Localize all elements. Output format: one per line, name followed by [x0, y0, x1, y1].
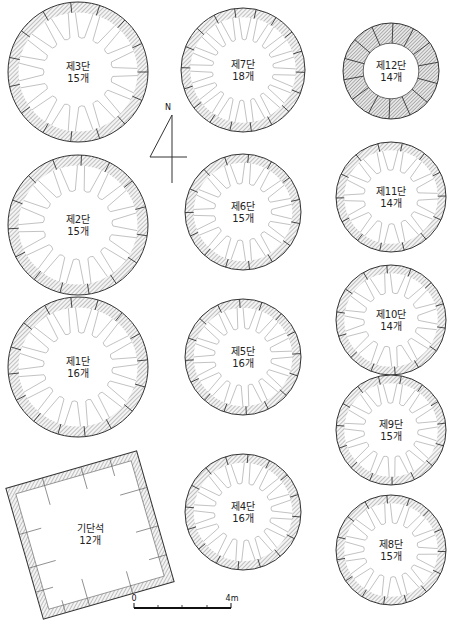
tier-name: 제11단: [376, 186, 407, 197]
tier-name: 제8단: [379, 539, 403, 550]
tier-name: 제3단: [66, 61, 90, 72]
scale-start-label: 0: [131, 594, 136, 603]
tier-stone-count: 15개: [380, 551, 402, 562]
foundation-stones: 기단석 12개: [6, 451, 174, 619]
tier-name: 제1단: [66, 356, 90, 367]
tier-name: 제6단: [231, 201, 255, 212]
plan-drawing: 제3단15개제2단15개제1단16개제7단18개제6단15개제5단16개제4단1…: [0, 0, 463, 637]
north-arrow-triangle: [150, 115, 187, 157]
tier-stone-count: 16개: [67, 368, 89, 379]
tier-stone-count: 14개: [380, 321, 402, 332]
scale-end-label: 4m: [226, 594, 239, 603]
tier-2: 제2단15개: [8, 155, 148, 295]
tier-3: 제3단15개: [8, 2, 148, 142]
foundation-name: 기단석: [77, 523, 104, 534]
tier-10: 제10단14개: [336, 265, 446, 375]
tier-name: 제10단: [376, 309, 407, 320]
tier-stone-count: 18개: [232, 71, 254, 82]
tier-8: 제8단15개: [336, 495, 446, 605]
tier-name: 제4단: [231, 501, 255, 512]
scale-bar: 0 4m: [131, 594, 238, 608]
tier-stone-count: 14개: [380, 198, 402, 209]
tier-5: 제5단16개: [185, 299, 301, 415]
tier-name: 제2단: [66, 214, 90, 225]
tier-6: 제6단15개: [185, 154, 301, 270]
tier-4: 제4단16개: [185, 454, 301, 570]
tier-7: 제7단18개: [181, 8, 305, 132]
tier-stone-count: 15개: [232, 213, 254, 224]
foundation-count: 12개: [79, 535, 101, 546]
tier-9: 제9단15개: [336, 375, 446, 485]
tier-11: 제11단14개: [336, 142, 446, 252]
north-label: N: [165, 103, 171, 112]
tier-name: 제9단: [379, 419, 403, 430]
tier-stone-count: 16개: [232, 513, 254, 524]
tier-name: 제7단: [231, 59, 255, 70]
tier-stone-count: 16개: [232, 358, 254, 369]
tier-stone-count: 15개: [67, 226, 89, 237]
tier-stone-count: 14개: [380, 72, 402, 83]
tier-stone-count: 15개: [67, 73, 89, 84]
tier-name: 제5단: [231, 346, 255, 357]
tier-name: 제12단: [376, 60, 407, 71]
tier-1: 제1단16개: [8, 297, 148, 437]
tier-12: 제12단14개: [343, 23, 439, 119]
north-arrow: N: [150, 103, 187, 183]
tier-stone-count: 15개: [380, 431, 402, 442]
